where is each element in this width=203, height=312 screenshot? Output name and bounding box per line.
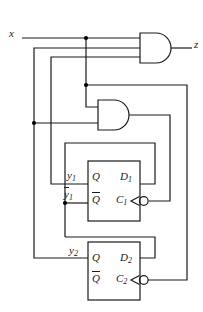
wire-y1bar-to-d1 bbox=[65, 143, 155, 237]
input-x-label: x bbox=[9, 27, 14, 40]
clock-edge-indicator-c1-icon bbox=[131, 197, 140, 206]
ff2-qbar-label: Q bbox=[92, 272, 100, 285]
and-gate-mid bbox=[98, 100, 129, 130]
ff1-q-label: Q bbox=[92, 170, 100, 183]
ff1-d1-label: D1 bbox=[120, 170, 132, 183]
wire-y1-feedback bbox=[51, 57, 140, 184]
wire-midand-to-c1 bbox=[129, 115, 170, 201]
output-z-label: z bbox=[194, 38, 198, 51]
ff2-c2-label: C2 bbox=[116, 272, 127, 285]
junction-dot bbox=[84, 83, 88, 87]
and-gate-top bbox=[140, 33, 171, 63]
junction-dot bbox=[63, 201, 67, 205]
junction-dots bbox=[32, 36, 88, 205]
wire-y1bar-to-d2 bbox=[65, 237, 155, 258]
wire-x-branch-c2 bbox=[86, 85, 187, 280]
circuit-wiring bbox=[0, 0, 203, 312]
ff1-c1-label: C1 bbox=[116, 193, 127, 206]
ff2-d2-label: D2 bbox=[120, 251, 132, 264]
clock-bubble-c2-icon bbox=[140, 276, 149, 285]
wire-label-y2: y2 bbox=[69, 244, 78, 257]
circuit-diagram: x z y1 y1 y2 Q D1 Q C1 Q D2 Q C2 bbox=[0, 0, 203, 312]
junction-dot bbox=[84, 36, 88, 40]
clock-bubble-c1-icon bbox=[140, 197, 149, 206]
junction-dot bbox=[32, 121, 36, 125]
wire-label-y1bar: y1 bbox=[64, 188, 73, 201]
ff1-qbar-label: Q bbox=[92, 193, 100, 206]
ff2-q-label: Q bbox=[92, 251, 100, 264]
wire-label-y1: y1 bbox=[67, 169, 76, 182]
wire-y2-feedback bbox=[34, 48, 140, 258]
clock-edge-indicator-c2-icon bbox=[131, 276, 140, 285]
